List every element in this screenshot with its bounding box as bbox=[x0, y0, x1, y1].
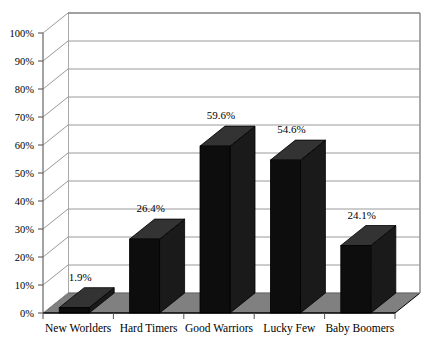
bar-front-face bbox=[200, 146, 230, 313]
bar-side-face bbox=[300, 140, 325, 313]
y-axis-tick-label: 50% bbox=[15, 168, 35, 179]
bar-value-label: 54.6% bbox=[277, 123, 305, 135]
x-axis-category-labels: New WorldersHard TimersGood WarriorsLuck… bbox=[45, 322, 395, 335]
y-axis-tick-label: 10% bbox=[15, 280, 35, 291]
y-axis-tick-label: 80% bbox=[15, 84, 35, 95]
bar-front-face bbox=[341, 246, 371, 313]
bar-2 bbox=[130, 219, 185, 313]
y-axis-tick-label: 0% bbox=[20, 308, 34, 319]
y-axis-group bbox=[38, 33, 43, 313]
bar-front-face bbox=[270, 160, 300, 313]
x-axis-category-label: Hard Timers bbox=[120, 322, 178, 334]
y-axis-tick-label: 40% bbox=[15, 196, 35, 207]
bar-chart-3d: 0%10%20%30%40%50%60%70%80%90%100% 1.9%26… bbox=[0, 0, 438, 348]
y-axis-tick-label: 70% bbox=[15, 112, 35, 123]
y-axis-tick-label: 100% bbox=[10, 28, 35, 39]
x-axis-baseline-group bbox=[43, 313, 395, 319]
x-axis-category-label: Baby Boomers bbox=[325, 322, 394, 335]
bar-value-label: 59.6% bbox=[207, 109, 235, 121]
x-axis-category-label: Good Warriors bbox=[185, 322, 254, 334]
bar-value-label: 1.9% bbox=[69, 271, 92, 283]
y-axis-tick-label: 90% bbox=[15, 56, 35, 67]
bar-4 bbox=[270, 140, 325, 313]
bar-front-face bbox=[59, 308, 89, 313]
bar-side-face bbox=[230, 126, 255, 313]
bar-value-label: 26.4% bbox=[136, 202, 164, 214]
y-axis-tick-labels: 0%10%20%30%40%50%60%70%80%90%100% bbox=[10, 28, 35, 319]
x-axis-category-label: Lucky Few bbox=[263, 322, 316, 335]
bar-front-face bbox=[130, 239, 160, 313]
x-axis-category-label: New Worlders bbox=[45, 322, 112, 334]
bar-5 bbox=[341, 226, 396, 313]
y-axis-tick-label: 30% bbox=[15, 224, 35, 235]
y-axis-tick-label: 20% bbox=[15, 252, 35, 263]
bar-3 bbox=[200, 126, 255, 313]
chart-container: 0%10%20%30%40%50%60%70%80%90%100% 1.9%26… bbox=[0, 0, 438, 348]
bar-value-label: 24.1% bbox=[348, 209, 376, 221]
y-axis-tick-label: 60% bbox=[15, 140, 35, 151]
